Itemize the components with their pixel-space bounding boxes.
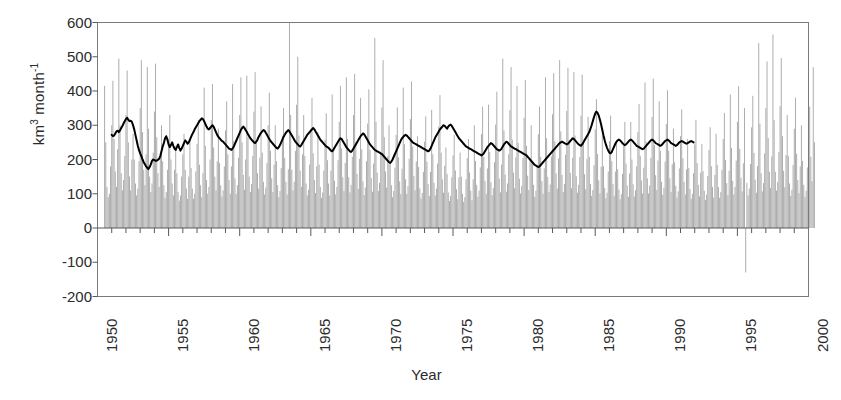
bar: [812, 181, 813, 228]
bar: [802, 161, 803, 228]
bar: [672, 164, 673, 228]
bar: [521, 186, 522, 228]
bar: [474, 125, 475, 228]
bar: [243, 175, 244, 228]
bar: [437, 164, 438, 228]
bar: [652, 117, 653, 228]
bar: [461, 177, 462, 228]
bar: [402, 169, 403, 228]
bar: [197, 144, 198, 228]
bar: [598, 180, 599, 228]
bar: [270, 151, 271, 228]
bar: [127, 70, 128, 228]
bar: [481, 134, 482, 228]
bar: [611, 161, 612, 228]
bar: [691, 199, 692, 228]
bar: [607, 193, 608, 228]
bar: [594, 165, 595, 228]
bar: [463, 202, 464, 228]
bar: [742, 191, 743, 228]
bar: [727, 195, 728, 228]
trend-line: [112, 112, 694, 170]
bar: [392, 197, 393, 228]
bar: [397, 107, 398, 228]
bar: [211, 120, 212, 228]
bar: [688, 168, 689, 228]
bar: [577, 193, 578, 228]
bar: [380, 153, 381, 228]
bar: [592, 190, 593, 228]
bar: [492, 195, 493, 228]
bar: [596, 99, 597, 228]
bar: [810, 157, 811, 228]
bar: [746, 183, 747, 228]
bar: [514, 188, 515, 228]
bar: [579, 157, 580, 228]
bar: [226, 101, 227, 228]
bar: [219, 163, 220, 228]
bar: [483, 157, 484, 228]
bar: [319, 165, 320, 228]
bar: [740, 178, 741, 228]
bar: [801, 125, 802, 228]
bar: [445, 148, 446, 228]
bar: [321, 198, 322, 228]
bar: [344, 191, 345, 228]
bar: [364, 195, 365, 228]
bar: [748, 195, 749, 228]
bar: [366, 161, 367, 228]
bar: [755, 180, 756, 228]
bar: [171, 160, 172, 229]
bar: [434, 183, 435, 228]
bar: [781, 58, 782, 228]
bar: [480, 167, 481, 228]
bar: [583, 142, 584, 228]
bar: [272, 192, 273, 228]
bar: [699, 196, 700, 228]
bar: [144, 185, 145, 228]
bar: [399, 181, 400, 228]
bar: [271, 178, 272, 228]
bar: [687, 139, 688, 228]
bar: [410, 119, 411, 228]
bar: [460, 153, 461, 228]
bar: [240, 77, 241, 228]
bar: [152, 183, 153, 228]
bar: [678, 191, 679, 228]
bar: [599, 193, 600, 228]
bar: [157, 173, 158, 228]
bar: [207, 194, 208, 228]
bar: [142, 132, 143, 228]
bar: [114, 139, 115, 228]
bar: [316, 166, 317, 228]
bar: [771, 156, 772, 228]
bar: [323, 170, 324, 228]
bar: [518, 143, 519, 228]
bar: [659, 101, 660, 228]
bar: [466, 179, 467, 228]
bar: [754, 153, 755, 228]
bar: [332, 94, 333, 228]
bar: [733, 194, 734, 228]
bar: [168, 139, 169, 228]
bar: [468, 139, 469, 228]
bar: [341, 149, 342, 228]
bar: [546, 138, 547, 228]
bar: [348, 177, 349, 228]
bar: [266, 163, 267, 228]
bar: [441, 153, 442, 228]
bar: [723, 139, 724, 228]
bar: [743, 163, 744, 228]
bar: [769, 172, 770, 228]
bar: [786, 155, 787, 228]
bar: [120, 125, 121, 228]
bar: [155, 64, 156, 228]
bar: [604, 188, 605, 228]
bar: [616, 141, 617, 228]
bar: [627, 186, 628, 228]
bar: [379, 183, 380, 228]
bar: [133, 134, 134, 228]
bar: [476, 185, 477, 228]
bar: [739, 149, 740, 228]
bar: [329, 195, 330, 228]
